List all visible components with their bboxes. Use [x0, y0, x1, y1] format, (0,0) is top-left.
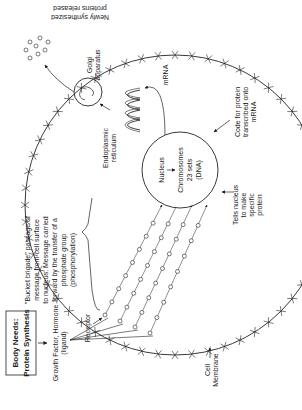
- growth-factor-label: Growth Factor, Hormone: [52, 305, 59, 382]
- golgi-apparatus: [74, 78, 102, 106]
- er-to-golgi-arrow-icon: [100, 104, 110, 110]
- title-line-2: Protein Synthesis: [22, 309, 31, 377]
- title-line-1: Body Needs:: [11, 319, 20, 368]
- mrna-label: mRNA: [162, 64, 169, 85]
- code-for-protein-text: Code for protein transcribed onto mRNA: [234, 87, 257, 137]
- tells-nucleus-text: Tells nucleus to make specific protein: [232, 184, 264, 225]
- er-label-2: reticulum: [110, 134, 117, 163]
- er-label: Endoplasmic: [102, 127, 110, 168]
- released-label: Newly synthesized: [51, 13, 109, 21]
- svg-text:to make: to make: [240, 192, 247, 217]
- diagram-stage: Body Needs: Protein Synthesis Growth Fac…: [0, 0, 302, 410]
- ligand-lines: [70, 318, 153, 340]
- endoplasmic-reticulum: [128, 90, 141, 130]
- svg-text:forward by the transfer of a: forward by the transfer of a: [51, 218, 59, 302]
- ligand-label: (ligand): [60, 331, 68, 354]
- svg-text:message from cell surface: message from cell surface: [33, 219, 41, 301]
- chromosomes-label: Chromosomes: [177, 147, 184, 193]
- released-label-2: proteins released: [53, 4, 107, 12]
- svg-text:phosphate group: phosphate group: [60, 234, 68, 287]
- bucket-brigade-text: "Bucket brigade" passage of message from…: [24, 216, 77, 304]
- release-arrow-icon: [45, 65, 74, 92]
- chromosome-sets-label: 23 sets: [186, 158, 193, 181]
- svg-text:specific: specific: [248, 193, 256, 217]
- nucleus-label: Nucleus: [158, 157, 165, 183]
- svg-text:Tells nucleus: Tells nucleus: [232, 184, 239, 225]
- mrna-arrow-icon: [145, 87, 165, 135]
- brace: [82, 198, 100, 310]
- cell-label: Cell: [204, 364, 211, 377]
- golgi-inner: [80, 87, 94, 100]
- golgi-label: Golgi: [86, 56, 94, 73]
- svg-text:transcribed onto: transcribed onto: [242, 87, 249, 137]
- svg-text:protein: protein: [256, 194, 264, 216]
- svg-text:(phosphorylation): (phosphorylation): [69, 233, 77, 287]
- svg-text:mRNA: mRNA: [250, 101, 257, 122]
- protein-synthesis-diagram: Body Needs: Protein Synthesis Growth Fac…: [0, 0, 302, 410]
- receptor-arrow-icon: [93, 318, 102, 324]
- svg-text:Code for protein: Code for protein: [234, 87, 242, 137]
- golgi-label-2: apparatus: [94, 49, 102, 81]
- signal-chains: [103, 205, 207, 335]
- svg-text:to nucleus. Message carried: to nucleus. Message carried: [42, 216, 50, 304]
- membrane-label: Membrane: [212, 353, 219, 387]
- code-arrow-icon: [214, 120, 230, 132]
- title-box: Body Needs: Protein Synthesis: [6, 309, 36, 377]
- dna-label: (DNA): [195, 160, 203, 179]
- released-proteins: [24, 36, 50, 60]
- svg-text:"Bucket brigade" passage of: "Bucket brigade" passage of: [24, 216, 32, 304]
